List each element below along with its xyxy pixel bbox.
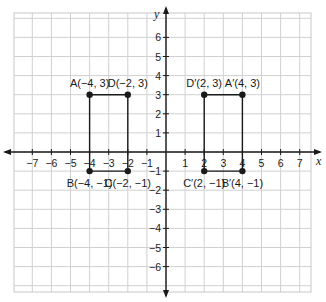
y-tick-label: 4: [155, 70, 161, 82]
y-tick-label: −5: [149, 242, 161, 254]
x-tick-label: −5: [65, 157, 77, 169]
y-tick-label: −1: [149, 165, 161, 177]
y-axis-arrow-down-icon: [163, 290, 169, 298]
x-tick-label: 5: [259, 157, 265, 169]
y-tick-label: 5: [155, 51, 161, 63]
y-tick-label: 2: [155, 108, 161, 120]
vertex-point: [239, 168, 245, 174]
vertex-point: [86, 168, 92, 174]
vertex-point: [86, 92, 92, 98]
y-tick-label: 1: [155, 127, 161, 139]
vertex-point: [239, 92, 245, 98]
y-tick-label: −4: [149, 222, 161, 234]
vertex-label: B′(4, −1): [222, 177, 264, 189]
x-tick-label: −6: [45, 157, 57, 169]
vertex-point: [125, 92, 131, 98]
vertex-label: A′(4, 3): [225, 77, 260, 89]
y-tick-label: −6: [149, 261, 161, 273]
vertex-point: [201, 92, 207, 98]
vertex-point: [125, 168, 131, 174]
x-tick-label: 7: [297, 157, 303, 169]
vertex-label: A(−4, 3): [70, 77, 109, 89]
y-tick-label: 6: [155, 31, 161, 43]
vertex-label: B(−4, −1): [67, 177, 113, 189]
coordinate-plane: xy−7−6−5−4−3−2−11234567654321−1−2−3−4−5−…: [0, 0, 326, 302]
vertex-label: C′(2, −1): [183, 177, 225, 189]
x-tick-label: 6: [278, 157, 284, 169]
vertex-label: D′(2, 3): [186, 77, 222, 89]
x-axis-label: x: [315, 154, 322, 168]
x-axis-arrow-left-icon: [3, 149, 11, 155]
y-tick-label: −3: [149, 203, 161, 215]
vertex-label: D(−2, 3): [108, 77, 148, 89]
x-tick-label: 3: [220, 157, 226, 169]
y-axis-label: y: [153, 7, 160, 21]
vertex-point: [201, 168, 207, 174]
y-tick-label: 3: [155, 89, 161, 101]
x-tick-label: −7: [26, 157, 38, 169]
x-tick-label: 1: [182, 157, 188, 169]
x-tick-label: −3: [103, 157, 115, 169]
y-axis-arrow-up-icon: [163, 6, 169, 14]
